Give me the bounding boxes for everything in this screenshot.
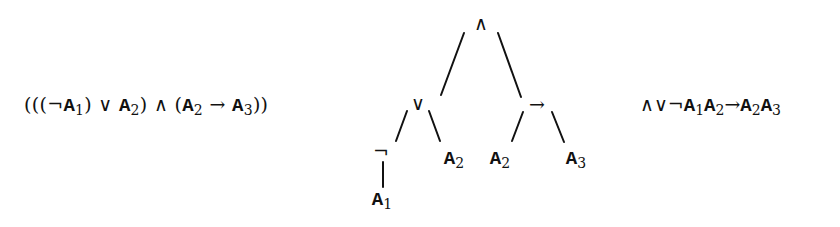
atom-letter: A [704, 95, 715, 117]
edge-implies-a3 [552, 112, 564, 142]
prefix-formula: ∧∨¬A1A2→A2A3 [640, 95, 781, 116]
leaf-a1: A1 [372, 189, 392, 210]
atom-a3: A3 [761, 95, 781, 117]
atom-a1: A1 [684, 95, 704, 117]
edge-and-implies [498, 33, 521, 97]
atom-letter: A [372, 189, 383, 211]
edge-and-or [441, 33, 464, 95]
atom-subscript: 3 [577, 155, 586, 171]
node-negation: ¬ [373, 142, 389, 161]
atom-letter: A [566, 148, 577, 170]
atom-subscript: 1 [383, 196, 392, 212]
edge-or-a2 [429, 111, 440, 141]
leaf-a2-left: A2 [444, 148, 464, 169]
atom-subscript: 1 [695, 102, 704, 118]
atom-letter: A [684, 95, 695, 117]
atom-subscript: 2 [501, 155, 510, 171]
atom-subscript: 3 [772, 102, 781, 118]
atom-letter: A [444, 148, 455, 170]
node-implies: → [529, 95, 545, 114]
edge-or-neg [396, 111, 407, 141]
prefix-operators: ∧∨¬ [640, 93, 684, 115]
leaf-a3: A3 [566, 148, 586, 169]
atom-letter: A [761, 95, 772, 117]
atom-letter: A [490, 148, 501, 170]
atom-subscript: 2 [455, 155, 464, 171]
node-and: ∧ [474, 14, 488, 33]
leaf-a2-right: A2 [490, 148, 510, 169]
edge-implies-a2 [512, 112, 523, 141]
atom-a2-second: A2 [740, 95, 760, 117]
node-or: ∨ [411, 94, 425, 113]
atom-letter: A [740, 95, 751, 117]
atom-subscript: 2 [752, 102, 761, 118]
atom-a2: A2 [704, 95, 724, 117]
implies-operator: → [724, 93, 740, 115]
